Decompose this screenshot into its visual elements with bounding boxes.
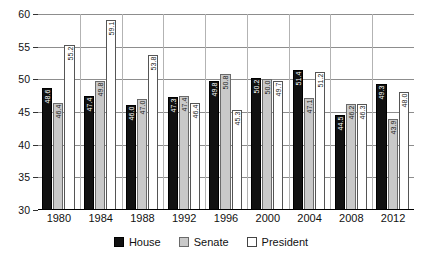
bar-value-label: 47.3 <box>169 98 176 112</box>
bar-value-label: 45.3 <box>233 112 240 126</box>
y-axis-tick-mark <box>33 14 38 15</box>
bar-value-label: 46.4 <box>191 104 198 118</box>
bar-value-label: 47.4 <box>180 98 187 112</box>
bar-house-2008: 44.5 <box>335 115 345 210</box>
bar-president-2008: 46.3 <box>357 104 367 210</box>
bar-president-1980: 55.2 <box>64 45 74 210</box>
x-axis-tick-label-2012: 2012 <box>381 212 405 224</box>
y-axis-tick-mark <box>33 177 38 178</box>
bar-senate-2012: 43.9 <box>388 119 398 210</box>
group-separator <box>163 14 164 210</box>
bar-value-label: 49.7 <box>275 83 282 97</box>
gridline <box>38 14 414 15</box>
bar-president-2000: 49.7 <box>273 81 283 210</box>
bar-value-label: 49.3 <box>378 85 385 99</box>
bar-value-label: 46.4 <box>55 104 62 118</box>
x-axis-tick-label-1996: 1996 <box>214 212 238 224</box>
x-axis-tick-label-2000: 2000 <box>256 212 280 224</box>
bar-president-1984: 59.1 <box>106 20 116 210</box>
x-axis-tick-label-1988: 1988 <box>130 212 154 224</box>
bar-value-label: 43.9 <box>389 121 396 135</box>
bar-senate-2004: 47.1 <box>304 98 314 210</box>
bar-value-label: 50.2 <box>253 80 260 94</box>
group-separator <box>80 14 81 210</box>
group-separator <box>330 14 331 210</box>
bar-president-1988: 53.8 <box>148 55 158 210</box>
legend-item-president[interactable]: President <box>247 236 308 248</box>
legend-swatch-president <box>247 237 257 247</box>
bar-value-label: 51.2 <box>317 73 324 87</box>
legend-label: President <box>262 236 308 248</box>
bar-senate-1996: 50.8 <box>220 74 230 210</box>
legend-swatch-senate <box>179 237 189 247</box>
y-axis-tick-label: 60 <box>0 8 30 20</box>
y-axis-tick-label: 50 <box>0 73 30 85</box>
y-axis-tick-mark <box>33 210 38 211</box>
bar-president-1992: 46.4 <box>190 103 200 210</box>
group-separator <box>372 14 373 210</box>
bar-senate-1980: 46.4 <box>53 103 63 210</box>
bar-value-label: 49.8 <box>211 82 218 96</box>
bar-house-1992: 47.3 <box>168 97 178 210</box>
bar-value-label: 51.4 <box>294 72 301 86</box>
chart-legend: HouseSenatePresident <box>0 236 422 248</box>
chart-page: 48.646.455.247.449.859.146.047.053.847.3… <box>0 0 422 267</box>
x-axis-tick-label-2008: 2008 <box>339 212 363 224</box>
bar-value-label: 47.1 <box>306 100 313 114</box>
bar-value-label: 59.1 <box>108 21 115 35</box>
bar-house-1984: 47.4 <box>84 96 94 210</box>
bar-senate-2008: 46.2 <box>346 104 356 210</box>
y-axis-tick-label: 35 <box>0 171 30 183</box>
plot-area: 48.646.455.247.449.859.146.047.053.847.3… <box>38 14 414 210</box>
y-axis-tick-mark <box>33 79 38 80</box>
bar-value-label: 53.8 <box>150 56 157 70</box>
bar-house-2000: 50.2 <box>251 78 261 210</box>
bar-value-label: 48.0 <box>400 94 407 108</box>
group-separator <box>122 14 123 210</box>
bar-value-label: 48.6 <box>44 90 51 104</box>
bar-senate-1984: 49.8 <box>95 81 105 210</box>
y-axis-tick-mark <box>33 47 38 48</box>
legend-swatch-house <box>114 237 124 247</box>
bar-senate-2000: 50.0 <box>262 79 272 210</box>
y-axis-tick-label: 30 <box>0 204 30 216</box>
bar-senate-1992: 47.4 <box>179 96 189 210</box>
bar-value-label: 47.0 <box>138 100 145 114</box>
bar-value-label: 46.2 <box>347 106 354 120</box>
group-separator <box>247 14 248 210</box>
bar-president-1996: 45.3 <box>232 110 242 210</box>
y-axis-tick-label: 45 <box>0 106 30 118</box>
y-axis-tick-mark <box>33 145 38 146</box>
bar-president-2004: 51.2 <box>315 72 325 211</box>
legend-label: Senate <box>194 236 229 248</box>
bar-house-1980: 48.6 <box>42 88 52 210</box>
bar-value-label: 50.8 <box>222 76 229 90</box>
legend-label: House <box>129 236 161 248</box>
bar-senate-1988: 47.0 <box>137 99 147 210</box>
bar-house-2004: 51.4 <box>293 70 303 210</box>
group-separator <box>289 14 290 210</box>
bar-value-label: 46.3 <box>358 105 365 119</box>
bar-house-2012: 49.3 <box>376 84 386 210</box>
bar-house-1988: 46.0 <box>126 105 136 210</box>
x-axis-line <box>38 209 414 211</box>
legend-item-house[interactable]: House <box>114 236 161 248</box>
gridline <box>38 47 414 48</box>
x-axis-tick-labels: 198019841988199219962000200420082012 <box>38 212 414 230</box>
group-separator <box>205 14 206 210</box>
bar-value-label: 47.4 <box>86 98 93 112</box>
bar-president-2012: 48.0 <box>399 92 409 210</box>
bar-value-label: 44.5 <box>336 117 343 131</box>
legend-item-senate[interactable]: Senate <box>179 236 229 248</box>
bar-value-label: 46.0 <box>127 107 134 121</box>
bar-value-label: 50.0 <box>264 81 271 95</box>
y-axis-tick-mark <box>33 112 38 113</box>
bar-value-label: 55.2 <box>66 47 73 61</box>
x-axis-tick-label-2004: 2004 <box>297 212 321 224</box>
bar-house-1996: 49.8 <box>209 81 219 210</box>
x-axis-tick-label-1984: 1984 <box>88 212 112 224</box>
x-axis-tick-label-1992: 1992 <box>172 212 196 224</box>
x-axis-tick-label-1980: 1980 <box>47 212 71 224</box>
y-axis-tick-label: 55 <box>0 41 30 53</box>
y-axis-tick-label: 40 <box>0 139 30 151</box>
